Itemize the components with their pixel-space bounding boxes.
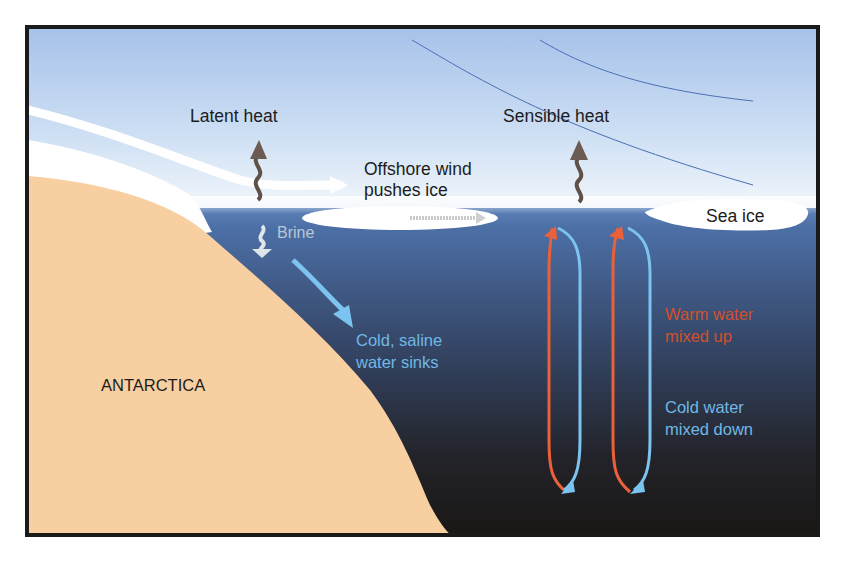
label-latent-heat: Latent heat bbox=[190, 106, 278, 126]
label-cold-water-line1: Cold water bbox=[665, 398, 744, 417]
label-sensible-heat: Sensible heat bbox=[503, 106, 609, 126]
label-warm-water-line2: mixed up bbox=[665, 327, 732, 346]
label-offshore-wind-line1: Offshore wind bbox=[364, 159, 472, 179]
label-cold-saline-line2: water sinks bbox=[356, 353, 439, 372]
diagram-canvas bbox=[0, 0, 841, 581]
label-antarctica: ANTARCTICA bbox=[101, 376, 205, 395]
label-offshore-wind-line2: pushes ice bbox=[364, 180, 448, 200]
label-cold-saline-line1: Cold, saline bbox=[356, 331, 442, 350]
label-cold-water-line2: mixed down bbox=[665, 420, 753, 439]
label-warm-water-line1: Warm water bbox=[665, 305, 753, 324]
polynya-diagram: Latent heat Sensible heat Offshore wind … bbox=[0, 0, 841, 581]
label-sea-ice: Sea ice bbox=[706, 206, 764, 226]
label-brine: Brine bbox=[277, 224, 314, 242]
